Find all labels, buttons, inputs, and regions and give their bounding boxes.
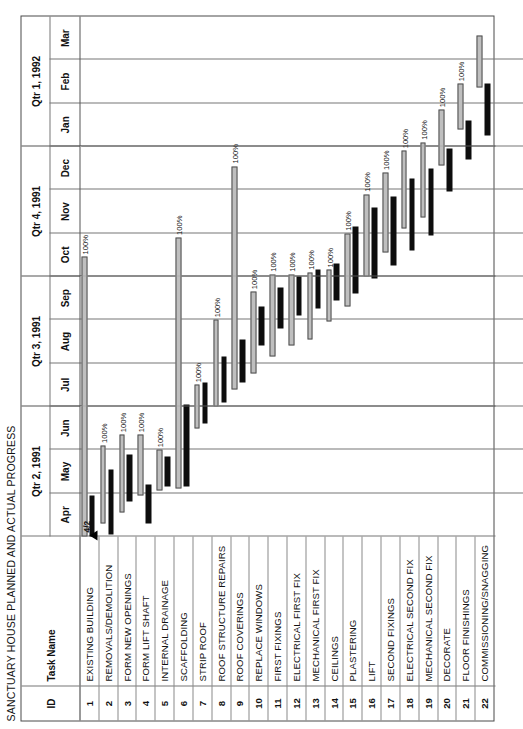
- percent-label-21: 100%: [456, 61, 465, 80]
- row-task-name-9: ROOF COVERINGS: [230, 536, 249, 686]
- quarter-header-2: Qtr 3, 1991: [21, 276, 49, 406]
- month-divider: [49, 232, 523, 233]
- planned-bar-15: [344, 233, 350, 307]
- actual-bar-10: [258, 306, 264, 345]
- row-id-18: 18: [399, 686, 418, 720]
- planned-bar-5: [156, 449, 162, 490]
- row-task-name-5: INTERNAL DRAINAGE: [154, 536, 173, 686]
- month-header-nov: Nov: [49, 189, 79, 232]
- planned-bar-14: [326, 270, 332, 322]
- month-header-mar: Mar: [49, 16, 79, 59]
- header-quarter-rule: [49, 16, 50, 536]
- planned-bar-16: [363, 194, 369, 276]
- actual-bar-9: [239, 339, 245, 382]
- month-header-may: May: [49, 449, 79, 492]
- actual-bar-20: [446, 148, 452, 191]
- row-task-name-19: MECHANICAL SECOND FIX: [418, 536, 437, 686]
- gantt-grid: IDTask NameQtr 2, 1991AprMayJunQtr 3, 19…: [20, 15, 494, 721]
- column-header-id: ID: [21, 686, 79, 720]
- row-id-4: 4: [135, 686, 154, 720]
- month-header-dec: Dec: [49, 146, 79, 189]
- month-divider: [49, 362, 523, 363]
- row-task-name-7: STRIP ROOF: [192, 536, 211, 686]
- planned-bar-22: [476, 36, 482, 88]
- quarter-header-4: Qtr 1, 1992: [21, 16, 49, 146]
- row-id-16: 16: [361, 686, 380, 720]
- row-task-name-12: ELECTRICAL FIRST FIX: [286, 536, 305, 686]
- row-id-20: 20: [437, 686, 456, 720]
- planned-bar-12: [288, 274, 294, 346]
- row-task-name-22: COMMISSIONING/SNAGGING: [474, 536, 493, 686]
- actual-bar-8: [221, 356, 227, 402]
- percent-label-1: 100%: [80, 235, 89, 254]
- row-id-12: 12: [286, 686, 305, 720]
- row-id-8: 8: [211, 686, 230, 720]
- month-header-jul: Jul: [49, 363, 79, 406]
- percent-label-10: 100%: [249, 269, 258, 288]
- planned-bar-9: [231, 166, 237, 389]
- percent-label-17: 100%: [381, 150, 390, 169]
- planned-bar-1: [81, 257, 87, 537]
- planned-bar-4: [137, 434, 143, 495]
- planned-bar-8: [213, 319, 219, 406]
- reference-line-2: [79, 275, 493, 276]
- quarter-header-1: Qtr 2, 1991: [21, 406, 49, 536]
- planned-bar-18: [401, 150, 407, 228]
- row-task-name-21: FLOOR FINISHINGS: [455, 536, 474, 686]
- month-header-apr: Apr: [49, 493, 79, 536]
- actual-bar-15: [352, 226, 358, 293]
- planned-bar-2: [100, 445, 106, 523]
- month-divider: [49, 102, 523, 103]
- row-task-name-2: REMOVALS/DEMOLITION: [98, 536, 117, 686]
- percent-label-15: 100%: [343, 211, 352, 230]
- month-header-jun: Jun: [49, 406, 79, 449]
- planned-bar-10: [250, 291, 256, 373]
- row-task-name-4: FORM LIFT SHAFT: [135, 536, 154, 686]
- row-task-name-8: ROOF STRUCTURE REPAIRS: [211, 536, 230, 686]
- row-id-13: 13: [305, 686, 324, 720]
- row-task-name-16: LIFT: [361, 536, 380, 686]
- row-id-17: 17: [380, 686, 399, 720]
- planned-bar-17: [382, 172, 388, 252]
- row-task-name-3: FORM NEW OPENINGS: [117, 536, 136, 686]
- percent-label-11: 100%: [268, 252, 277, 271]
- reference-line-1: [79, 405, 493, 406]
- percent-label-8: 100%: [212, 297, 221, 316]
- actual-bar-14: [333, 263, 339, 300]
- actual-bar-18: [409, 179, 415, 251]
- row-id-10: 10: [248, 686, 267, 720]
- column-header-task-name: Task Name: [21, 536, 79, 686]
- planned-bar-20: [438, 109, 444, 165]
- percent-label-19: 100%: [419, 120, 428, 139]
- row-task-name-18: ELECTRICAL SECOND FIX: [399, 536, 418, 686]
- row-id-3: 3: [117, 686, 136, 720]
- actual-bar-12: [296, 276, 302, 315]
- percent-label-2: 100%: [99, 423, 108, 442]
- month-header-jan: Jan: [49, 103, 79, 146]
- percent-label-6: 100%: [174, 215, 183, 234]
- month-header-sep: Sep: [49, 276, 79, 319]
- actual-bar-3: [126, 454, 132, 502]
- percent-label-3: 100%: [118, 412, 127, 431]
- timeline-header: IDTask NameQtr 2, 1991AprMayJunQtr 3, 19…: [21, 16, 81, 720]
- actual-bar-21: [465, 120, 471, 159]
- row-task-name-20: DECORATE: [437, 536, 456, 686]
- planned-bar-3: [119, 434, 125, 512]
- row-id-5: 5: [154, 686, 173, 720]
- actual-bar-4: [145, 484, 151, 523]
- actual-bar-5: [164, 456, 170, 486]
- actual-bar-19: [428, 168, 434, 235]
- row-task-name-17: SECOND FIXINGS: [380, 536, 399, 686]
- percent-label-13: 100%: [306, 250, 315, 269]
- row-task-name-6: SCAFFOLDING: [173, 536, 192, 686]
- month-header-oct: Oct: [49, 233, 79, 276]
- row-id-14: 14: [324, 686, 343, 720]
- month-header-feb: Feb: [49, 59, 79, 102]
- row-id-1: 1: [79, 686, 98, 720]
- row-id-9: 9: [230, 686, 249, 720]
- row-id-21: 21: [455, 686, 474, 720]
- row-id-22: 22: [474, 686, 493, 720]
- actual-bar-22: [484, 83, 490, 135]
- row-id-7: 7: [192, 686, 211, 720]
